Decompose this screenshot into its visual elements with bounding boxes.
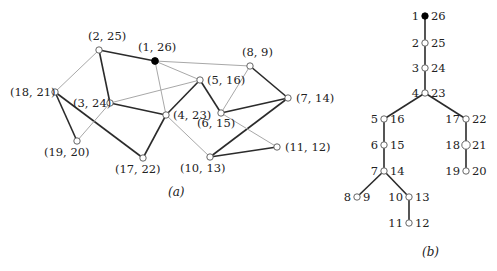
tree-node [381,142,387,148]
caption-b: (b) [422,245,439,259]
tree-node [422,65,428,71]
graph-edge-dark [250,66,288,98]
node-label: (10, 13) [180,161,226,175]
tree-node [463,116,469,122]
graph-edge-light [155,61,250,66]
tree-node-right-label: 24 [431,61,446,75]
tree-node-left-label: 6 [371,138,378,152]
diagram-canvas: (1, 26)(2, 25)(3, 24)(4, 23)(5, 16)(6, 1… [0,0,497,271]
graph-edge-light [55,50,99,92]
tree-node-right-label: 21 [472,138,487,152]
root-node [152,58,159,65]
tree-node-right-label: 26 [431,9,446,23]
graph-node [207,154,213,160]
tree-node [462,141,470,149]
graph-node [197,77,203,83]
node-label: (2, 25) [88,29,126,43]
graph-node [247,63,253,69]
graph-edge-light [155,61,200,80]
tree-node-left-label: 11 [388,216,403,230]
tree-node-right-label: 22 [472,112,487,126]
tree-node-right-label: 13 [415,190,430,204]
graph-node [74,138,80,144]
tree-node-left-label: 1 [412,9,419,23]
tree-node [406,220,412,226]
graph-edge-light [155,61,166,115]
tree-node-right-label: 16 [390,112,405,126]
tree-b: 1262253244235166157148910131112172218211… [344,9,487,259]
graph-a: (1, 26)(2, 25)(3, 24)(4, 23)(5, 16)(6, 1… [10,29,334,199]
graph-node [285,95,291,101]
node-label: (8, 9) [242,45,273,59]
graph-edge-dark [110,103,166,115]
tree-node-left-label: 10 [388,190,403,204]
tree-node-right-label: 25 [431,36,446,50]
node-label: (18, 21) [10,85,56,99]
node-label: (7, 14) [296,91,334,105]
tree-node [422,40,428,46]
tree-node-left-label: 17 [445,112,460,126]
node-label: (1, 26) [138,40,176,54]
tree-node-right-label: 23 [431,86,446,100]
node-label: (11, 12) [285,140,331,154]
graph-node [140,155,146,161]
tree-node-right-label: 15 [390,138,405,152]
tree-node-left-label: 18 [445,138,460,152]
graph-node [163,112,169,118]
node-label: (6, 15) [197,116,235,130]
tree-node-right-label: 9 [363,190,370,204]
tree-node-left-label: 19 [445,164,460,178]
tree-node [406,194,412,200]
tree-node-right-label: 14 [390,164,405,178]
tree-node-left-label: 7 [371,164,378,178]
tree-node-left-label: 3 [412,61,419,75]
graph-node [274,144,280,150]
node-label: (5, 16) [207,73,245,87]
graph-node [96,47,102,53]
node-label: (19, 20) [44,145,90,159]
tree-node-right-label: 20 [472,164,487,178]
tree-node [422,90,428,96]
tree-node-right-label: 12 [415,216,430,230]
tree-node-left-label: 4 [412,86,419,100]
tree-node [463,168,469,174]
tree-node [381,168,387,174]
node-label: (17, 22) [115,162,161,176]
tree-node-left-label: 5 [371,112,378,126]
tree-root-node [422,13,428,19]
node-label: (3, 24) [73,96,111,110]
tree-node [354,194,360,200]
caption-a: (a) [168,185,185,199]
tree-node-left-label: 8 [344,190,351,204]
graph-a-labels: (1, 26)(2, 25)(3, 24)(4, 23)(5, 16)(6, 1… [10,29,334,176]
tree-node [381,116,387,122]
graph-edge-dark [143,115,166,158]
tree-node-left-label: 2 [412,36,419,50]
graph-edge-light [110,80,200,103]
